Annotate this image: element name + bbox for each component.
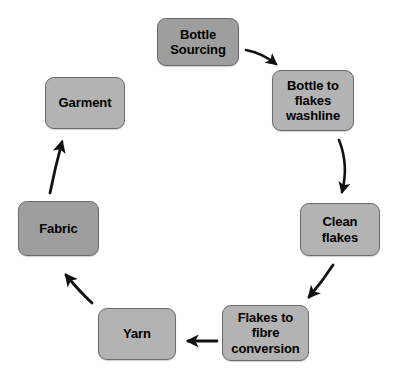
- node-yarn-label: Yarn: [120, 326, 154, 341]
- node-fabric[interactable]: Fabric: [18, 201, 99, 256]
- node-flakes-to-fibre-conversion[interactable]: Flakes to fibre conversion: [222, 305, 309, 361]
- edge-fabric-to-garment-arrow: [50, 142, 62, 193]
- edge-sourcing-to-washline-arrow: [246, 50, 276, 64]
- node-clean-flakes-label: Clean flakes: [319, 214, 361, 245]
- node-bottle-sourcing[interactable]: Bottle Sourcing: [157, 18, 239, 66]
- node-bottle-to-flakes-washline[interactable]: Bottle to flakes washline: [272, 70, 354, 131]
- node-clean-flakes[interactable]: Clean flakes: [300, 203, 380, 256]
- node-garment-label: Garment: [56, 95, 115, 110]
- node-garment[interactable]: Garment: [45, 77, 125, 129]
- edge-yarn-to-fabric-arrow: [66, 275, 92, 303]
- node-yarn[interactable]: Yarn: [98, 308, 176, 360]
- node-bottle-sourcing-label: Bottle Sourcing: [167, 27, 229, 58]
- process-diagram: Bottle Sourcing Bottle to flakes washlin…: [0, 0, 402, 380]
- node-flakes-to-fibre-conversion-label: Flakes to fibre conversion: [228, 310, 302, 356]
- node-fabric-label: Fabric: [36, 221, 80, 236]
- node-bottle-to-flakes-washline-label: Bottle to flakes washline: [283, 78, 343, 124]
- edge-washline-to-clean-arrow: [339, 140, 345, 192]
- edge-clean-to-fibre-arrow: [309, 265, 333, 297]
